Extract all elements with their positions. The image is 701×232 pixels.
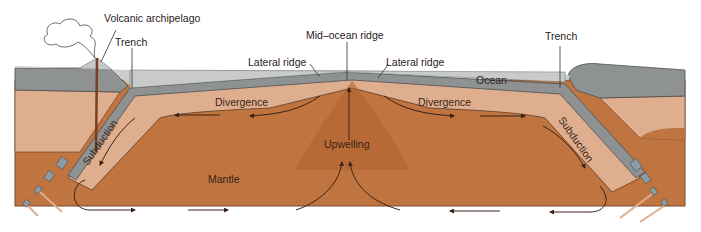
- label-mantle: Mantle: [208, 173, 240, 185]
- label-divergence-right: Divergence: [418, 96, 471, 108]
- label-trench-right: Trench: [545, 30, 577, 42]
- right-continent-crust: [568, 64, 685, 99]
- volcanic-plume-icon: [44, 19, 95, 58]
- label-lateral-ridge-left: Lateral ridge: [248, 56, 307, 68]
- left-arc-crust: [15, 58, 128, 92]
- label-mid-ocean-ridge: Mid–ocean ridge: [306, 29, 384, 41]
- label-trench-left: Trench: [115, 36, 147, 48]
- label-upwelling: Upwelling: [324, 138, 370, 150]
- label-ocean: Ocean: [476, 74, 507, 86]
- label-volcanic-archipelago: Volcanic archipelago: [104, 12, 200, 24]
- label-lateral-ridge-right: Lateral ridge: [386, 56, 445, 68]
- plate-tectonics-diagram: Volcanic archipelago Trench Mid–ocean ri…: [0, 0, 701, 232]
- label-divergence-left: Divergence: [215, 96, 268, 108]
